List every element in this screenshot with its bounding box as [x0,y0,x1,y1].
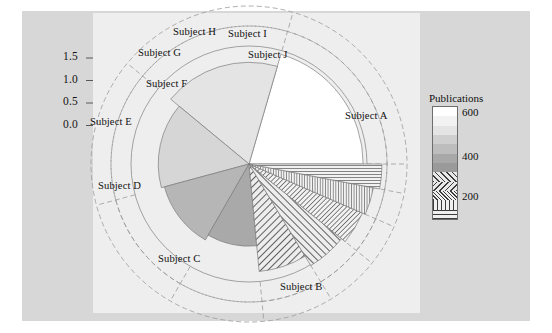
sector-label: Subject H [173,26,216,37]
y-axis-tick-label: 0.0 [44,118,78,130]
sector-label: Subject C [158,253,200,264]
sector-label: Subject F [146,78,187,89]
sector-label: Subject A [345,110,387,121]
legend-band [433,182,457,191]
legend-band [433,116,457,125]
legend-colorbar[interactable] [432,106,458,220]
ring-segment-arc [356,219,375,251]
y-axis-tick-label: 1.5 [44,50,78,62]
legend-band [433,144,457,153]
legend-title: Publications [429,92,483,104]
pie-slices [158,54,382,271]
ring-segment-arc [376,190,385,219]
ring-segment-arc [321,251,357,282]
legend-band [433,154,457,163]
legend-band [433,210,457,219]
legend-band [433,107,457,116]
legend-tick-label: 400 [462,150,479,162]
y-axis-tick-label: 1.0 [44,73,78,85]
figure-root: 1.51.00.50.0 Subject ASubject BSubject C… [0,0,552,333]
y-axis-tick-label: 0.5 [44,95,78,107]
legend-band [433,200,457,209]
sector-label: Subject D [98,180,141,191]
sector-label: Subject E [90,116,132,127]
sector-label: Subject G [138,47,181,58]
legend-tick-label: 600 [462,106,479,118]
legend-band [433,191,457,200]
sector-label: Subject I [228,28,267,39]
sector-label: Subject J [248,49,287,60]
legend-band [433,163,457,172]
legend-band [433,172,457,181]
ring-segment-arc [180,284,262,302]
legend-band [433,126,457,135]
legend-tick-label: 200 [462,190,479,202]
legend-band [433,135,457,144]
ring-segment-arc [116,200,180,284]
sector-label: Subject B [280,281,322,292]
